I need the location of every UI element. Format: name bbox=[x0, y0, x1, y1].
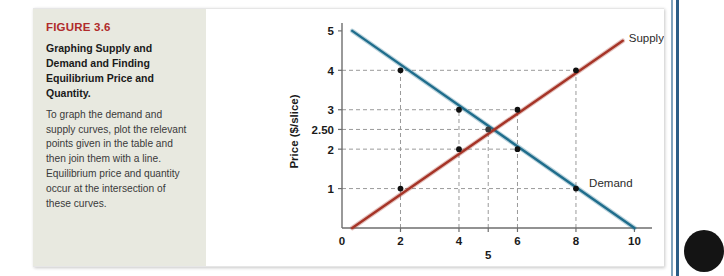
y-axis-title: Price ($/slice) bbox=[288, 94, 300, 168]
data-point-supply bbox=[456, 146, 462, 152]
series-label-demand: Demand bbox=[589, 177, 632, 189]
y-tick-label: 2.50 bbox=[312, 124, 334, 136]
page-divider bbox=[676, 0, 679, 276]
data-point-supply bbox=[398, 186, 404, 192]
x-tick-label: 5 bbox=[485, 249, 492, 261]
y-tick-label: 3 bbox=[328, 104, 334, 116]
x-tick-label: 0 bbox=[339, 235, 345, 247]
figure-number-label: FIGURE 3.6 bbox=[46, 21, 193, 34]
figure-body-text: To graph the demand and supply curves, p… bbox=[46, 108, 193, 211]
page-left-margin bbox=[0, 0, 33, 276]
x-tick-label: 4 bbox=[456, 235, 463, 247]
y-tick-label: 5 bbox=[328, 25, 335, 37]
page-divider-highlight bbox=[671, 0, 673, 276]
chart-panel: 122.5034502456810 DemandSupply Quantity … bbox=[206, 9, 664, 266]
y-tick-label: 4 bbox=[328, 65, 335, 77]
data-point-supply bbox=[515, 107, 521, 113]
x-tick-label: 10 bbox=[628, 235, 641, 247]
axis-titles-layer: Quantity (1,000s of slices/day)Price ($/… bbox=[288, 94, 586, 266]
series-label-supply: Supply bbox=[629, 32, 664, 44]
figure-caption-panel: FIGURE 3.6 Graphing Supply and Demand an… bbox=[33, 9, 206, 266]
corner-blob-decoration bbox=[684, 230, 724, 272]
data-point-supply bbox=[573, 67, 579, 73]
supply-demand-chart: 122.5034502456810 DemandSupply Quantity … bbox=[206, 9, 664, 266]
figure-title: Graphing Supply and Demand and Finding E… bbox=[46, 41, 193, 101]
y-tick-label: 2 bbox=[328, 144, 334, 156]
data-point-demand bbox=[515, 146, 521, 152]
x-tick-label: 2 bbox=[397, 235, 403, 247]
data-point-demand bbox=[398, 67, 404, 73]
equilibrium-point bbox=[485, 127, 491, 133]
data-point-demand bbox=[456, 107, 462, 113]
data-point-demand bbox=[573, 186, 579, 192]
x-tick-label: 6 bbox=[514, 235, 520, 247]
x-tick-label: 8 bbox=[573, 235, 580, 247]
y-tick-label: 1 bbox=[328, 183, 335, 195]
curve-supply bbox=[352, 41, 623, 228]
